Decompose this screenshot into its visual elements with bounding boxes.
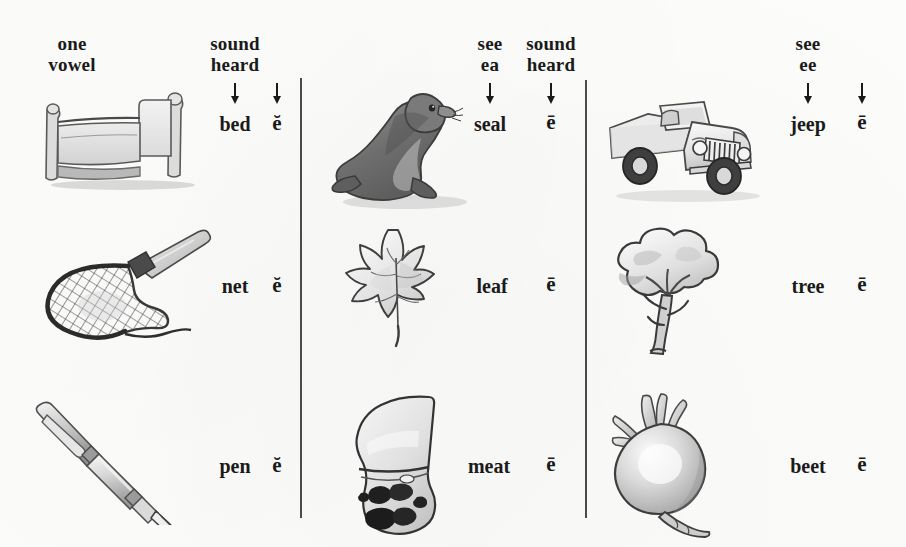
beet-illustration [603, 390, 758, 540]
column-1-row-2-vowel: ĕ [272, 274, 281, 298]
column-3-row-1-word: jeep [790, 113, 826, 135]
net-illustration [30, 222, 215, 347]
column-1-vowel-arrow-icon [270, 82, 284, 106]
column-1-spelling-header: onevowel [48, 33, 95, 76]
column-3-row-3-vowel: ē [857, 453, 866, 477]
column-3-row-2-word: tree [792, 275, 825, 297]
column-2-row-3-vowel: ē [546, 453, 555, 477]
column-3-row-2-vowel: ē [857, 273, 866, 297]
pen-illustration [25, 400, 210, 525]
column-1-word-header: soundheard [210, 33, 260, 76]
column-2-row-1-word: seal [474, 113, 506, 135]
column-3-row-1-vowel: ē [857, 111, 866, 135]
column-3-row-3-word: beet [790, 455, 826, 477]
column-2-word-header: soundheard [526, 33, 576, 76]
column-1-word-arrow-icon [228, 82, 242, 106]
column-1-row-3-word: pen [219, 455, 250, 477]
header-line-2: vowel [48, 54, 95, 75]
column-3-vowel-arrow-icon [855, 82, 869, 106]
header-line-1: one [57, 33, 86, 54]
header-line-2: heard [211, 54, 260, 75]
column-2-word-arrow-icon [483, 82, 497, 106]
header-line-2: heard [527, 54, 576, 75]
tree-illustration [598, 225, 748, 355]
column-1-row-2-word: net [222, 275, 249, 297]
header-line-1: see [478, 33, 503, 54]
column-1-row-1-vowel: ĕ [272, 112, 281, 136]
bed-illustration [35, 82, 205, 192]
column-2-spelling-header: seeea [478, 33, 503, 76]
column-1-row-1-word: bed [219, 113, 250, 135]
column-3-word-arrow-icon [801, 82, 815, 106]
column-2-row-3-word: meat [468, 455, 510, 477]
column-2-row-2-word: leaf [476, 275, 507, 297]
column-3-spelling-header: seeee [796, 33, 821, 76]
column-2-vowel-arrow-icon [544, 82, 558, 106]
header-line-2: ee [799, 54, 816, 75]
header-line-2: ea [481, 54, 499, 75]
leaf-illustration [330, 222, 470, 350]
header-line-1: sound [526, 33, 576, 54]
column-divider-1 [300, 78, 302, 518]
jeep-illustration [600, 88, 770, 203]
column-1-row-3-vowel: ĕ [272, 454, 281, 478]
seal-illustration [325, 82, 485, 210]
vowel-sound-chart: onevowel soundheard [0, 0, 906, 547]
column-2-row-1-vowel: ē [546, 111, 555, 135]
header-line-1: sound [210, 33, 260, 54]
column-divider-2 [585, 80, 587, 518]
header-line-1: see [796, 33, 821, 54]
column-2-row-2-vowel: ē [546, 273, 555, 297]
meat-illustration [335, 393, 470, 538]
